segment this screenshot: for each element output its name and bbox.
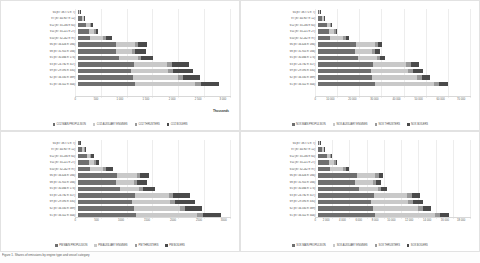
category-label: V5 (8T: 30.466 n: 173)	[245, 187, 318, 190]
bar-row: V5 (8T: 30.466 n: 173)	[5, 186, 231, 192]
bar-segment	[358, 56, 377, 61]
legend-label: SOX BOILERS	[411, 244, 428, 247]
legend-item[interactable]: NOX AUXILIARY ENGINES	[333, 123, 368, 126]
bar-track	[78, 9, 232, 15]
legend-item[interactable]: PM AUXILIARY ENGINES	[94, 244, 127, 247]
bar-row: V5 (8T: 30.466 n: 173)	[5, 55, 231, 61]
stacked-bar	[318, 23, 472, 28]
bar-segment	[372, 75, 417, 80]
bar-segment	[422, 75, 430, 80]
x-axis-nox: 010 00020 00030 00040 00050 00060 00070 …	[315, 96, 471, 106]
legend-label: SOX MAIN PROPULSION	[296, 244, 325, 247]
category-label: V4 (8T: 38.771 n: 7)	[245, 142, 318, 145]
bar-segment	[356, 42, 375, 47]
bar-row: V7 (8T: 44.907 n: 12)	[5, 16, 231, 22]
x-tick-label: 6 000	[355, 219, 362, 227]
bar-track	[318, 55, 472, 61]
bar-rows-pm: V4 (8T: 38.771 n: 7)V7 (8T: 44.907 n: 12…	[5, 140, 231, 219]
bar-segment	[78, 29, 89, 34]
legend-item[interactable]: SOX AUXILIARY ENGINES	[333, 244, 368, 247]
stacked-bar	[318, 167, 472, 172]
category-label: V9 (8T: 29.395 n: 335)	[5, 69, 78, 72]
bar-segment	[318, 193, 374, 198]
legend-item[interactable]: NOX BOILERS	[407, 123, 428, 126]
bar-row: V9 (8T: 29.395 n: 335)	[5, 199, 231, 205]
legend-item[interactable]: NOX THRUSTERS	[375, 123, 400, 126]
stacked-bar	[78, 56, 232, 61]
plot-area-sox: V4 (8T: 38.771 n: 7)V7 (8T: 44.907 n: 12…	[245, 136, 475, 249]
legend-label: CO2 THRUSTERS	[139, 123, 160, 126]
legend-item[interactable]: PM BOILERS	[165, 244, 184, 247]
bar-row: V12 (8T: 35.236 n: 65)	[245, 153, 471, 159]
legend-item[interactable]: CO2 AUXILIARY ENGINES	[93, 123, 128, 126]
bar-track	[318, 42, 472, 48]
stacked-bar	[78, 206, 232, 211]
category-label: V3 (8T: 24.782 n: 317)	[5, 194, 78, 197]
bar-segment	[78, 167, 91, 172]
bar-segment	[78, 56, 120, 61]
category-label: V4 (8T: 38.771 n: 7)	[5, 11, 78, 14]
legend-swatch-icon	[55, 244, 58, 247]
legend-item[interactable]: NOX MAIN PROPULSION	[292, 123, 326, 126]
legend-item[interactable]: CO2 MAIN PROPULSION	[53, 123, 86, 126]
legend-item[interactable]: PM MAIN PROPULSION	[55, 244, 87, 247]
bar-segment	[78, 193, 135, 198]
category-label: V3 (8T: 24.782 n: 317)	[245, 63, 318, 66]
legend-item[interactable]: CO2 THRUSTERS	[135, 123, 160, 126]
category-label: V11 (8T: 35.221 n: 27)	[245, 161, 318, 164]
stacked-bar	[318, 10, 472, 15]
bar-row: V3 (8T: 24.782 n: 317)	[5, 192, 231, 198]
bar-track	[78, 81, 232, 87]
stacked-bar	[318, 154, 472, 159]
bar-row: V9 (8T: 29.395 n: 335)	[5, 68, 231, 74]
legend-swatch-icon	[375, 123, 378, 126]
stacked-bar	[78, 180, 232, 185]
category-label: V10 (8T: 32.242 n: 97)	[245, 37, 318, 40]
bar-track	[78, 61, 232, 67]
x-tick-label: 12 000	[405, 219, 413, 227]
bar-row: V5 (8T: 30.466 n: 173)	[245, 55, 471, 61]
legend-item[interactable]: SOX MAIN PROPULSION	[292, 244, 325, 247]
x-tick-label: 2500	[196, 219, 202, 227]
bar-track	[318, 48, 472, 54]
bar-row: V4 (8T: 38.771 n: 7)	[5, 140, 231, 146]
x-tick-label: 0	[315, 219, 317, 227]
bar-segment	[318, 36, 331, 41]
stacked-bar	[78, 187, 232, 192]
bar-segment	[336, 29, 337, 34]
legend-swatch-icon	[407, 244, 410, 247]
bar-row: V12 (8T: 35.236 n: 65)	[5, 22, 231, 28]
legend-item[interactable]: SOX BOILERS	[407, 244, 428, 247]
legend-label: NOX THRUSTERS	[379, 123, 401, 126]
x-tick-label: 500	[94, 98, 98, 106]
bar-track	[78, 173, 232, 179]
category-label: V11 (8T: 35.221 n: 27)	[5, 30, 78, 33]
legend-label: NOX AUXILIARY ENGINES	[337, 123, 368, 126]
legend-item[interactable]: CO2 BOILERS	[167, 123, 188, 126]
legend-label: PM THRUSTERS	[139, 244, 159, 247]
category-label: V9 (8T: 29.395 n: 335)	[245, 69, 318, 72]
x-tick-label: 3 000	[220, 98, 227, 106]
stacked-bar	[318, 206, 472, 211]
x-tick-label: 0	[75, 219, 77, 227]
bar-track	[318, 199, 472, 205]
legend-swatch-icon	[93, 123, 96, 126]
bar-row: V2 (8T: 34.335 n: 389)	[245, 74, 471, 80]
x-axis-pm: 050010001500200025003000	[75, 217, 231, 227]
legend-item[interactable]: PM THRUSTERS	[135, 244, 159, 247]
bar-row: V9 (8T: 29.395 n: 335)	[245, 68, 471, 74]
legend-nox: NOX MAIN PROPULSIONNOX AUXILIARY ENGINES…	[245, 123, 475, 126]
bar-track	[78, 35, 232, 41]
x-tick-label: 70 000	[457, 98, 465, 106]
stacked-bar	[78, 69, 232, 74]
stacked-bar	[78, 160, 232, 165]
bar-segment	[318, 180, 356, 185]
bar-row: V10 (8T: 32.242 n: 97)	[5, 166, 231, 172]
stacked-bar	[318, 42, 472, 47]
bar-segment	[331, 23, 332, 28]
legend-item[interactable]: SOX THRUSTERS	[375, 244, 400, 247]
bar-segment	[78, 180, 117, 185]
bar-segment	[413, 69, 423, 74]
bar-segment	[78, 62, 134, 67]
bar-segment	[318, 187, 360, 192]
